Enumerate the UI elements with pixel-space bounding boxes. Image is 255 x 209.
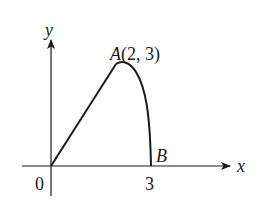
y-axis-label: y xyxy=(43,20,53,40)
point-a-label: A(2, 3) xyxy=(109,44,160,65)
x-axis-label: x xyxy=(236,156,245,176)
segment-oa xyxy=(51,64,116,166)
arc-ab xyxy=(116,62,151,166)
origin-label: 0 xyxy=(35,174,44,194)
coordinate-diagram: y x 0 3 A(2, 3) B xyxy=(0,0,255,209)
x-tick-label-3: 3 xyxy=(145,174,154,194)
point-b-label: B xyxy=(156,146,167,166)
